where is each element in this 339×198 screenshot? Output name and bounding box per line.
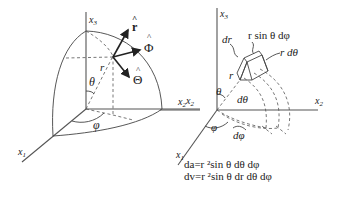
- r-label: r: [100, 61, 105, 73]
- phi-hat-label: Φ: [144, 40, 154, 55]
- rdtheta-leader: [266, 53, 280, 60]
- meridian-outer: [260, 69, 290, 130]
- spherical-coordinates-figure: x3 x2 x1 ^ r ^ Φ ^ Θ r θ φ: [0, 0, 339, 198]
- x2-label: x2: [185, 95, 194, 108]
- equator-ticks: [262, 126, 286, 134]
- theta-hat-label: Θ: [133, 72, 142, 87]
- sphere-arc-x3-x1: [53, 31, 86, 136]
- area-element-equation: da=r ²sin θ dθ dφ: [184, 159, 259, 170]
- phi-label: φ: [93, 118, 100, 132]
- theta-arc: [86, 91, 94, 94]
- x1-label: x1: [17, 146, 26, 159]
- volume-element: [237, 51, 268, 80]
- theta-hat-vector: [113, 57, 129, 77]
- r-hat-label: r: [132, 20, 138, 34]
- projection-extend: [113, 115, 133, 120]
- dr-label: dr: [222, 33, 233, 45]
- r-sin-theta-dphi-label: r sin θ dφ: [248, 29, 290, 41]
- r-dtheta-label: r dθ: [280, 46, 299, 58]
- theta-label: θ: [89, 75, 95, 89]
- x2-label-right: x2: [314, 95, 323, 108]
- right-panel: x3 x2 x2 x1 dr r sin θ dφ r dθ r θ dθ φ …: [160, 8, 323, 165]
- dr-leader: [230, 44, 238, 57]
- theta-label-right: θ: [216, 85, 222, 97]
- latitude-line: [66, 57, 113, 58]
- x3-label: x3: [88, 14, 97, 27]
- dphi-label: dφ: [233, 129, 245, 141]
- diagram-canvas: x3 x2 x1 ^ r ^ Φ ^ Θ r θ φ: [0, 0, 339, 198]
- left-panel: x3 x2 x1 ^ r ^ Φ ^ Θ r θ φ: [17, 12, 200, 162]
- r-label-right: r: [229, 69, 234, 81]
- equator-arc-mid: [222, 114, 278, 128]
- x1-label-right: x1: [175, 149, 184, 162]
- rsin-leader: [252, 42, 254, 54]
- volume-element-equation: dv=r ²sin θ dr dθ dφ: [184, 171, 272, 182]
- x3-label-right: x3: [219, 8, 228, 21]
- dtheta-label: dθ: [237, 93, 249, 105]
- phi-label-right: φ: [211, 121, 217, 133]
- projection-radial: [86, 109, 113, 115]
